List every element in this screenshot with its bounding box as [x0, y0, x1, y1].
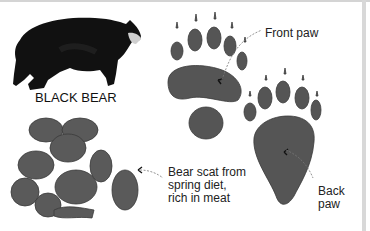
round-pad-illustration	[189, 107, 223, 139]
back-paw-illustration	[244, 68, 321, 204]
back-paw-label: Back paw	[318, 185, 345, 211]
black-bear-illustration	[13, 18, 141, 90]
back-paw-label-line2: paw	[318, 198, 345, 211]
front-paw-illustration	[168, 12, 262, 102]
bear-scat-illustration	[11, 118, 163, 218]
scat-label: Bear scat from spring diet, rich in meat	[168, 166, 246, 205]
front-paw-label: Front paw	[265, 27, 318, 40]
scat-label-line3: rich in meat	[168, 192, 246, 205]
bear-label: BLACK BEAR	[35, 91, 117, 104]
